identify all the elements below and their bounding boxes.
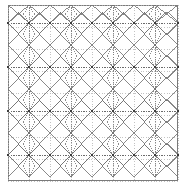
lattice-node (177, 66, 179, 68)
lattice-node (91, 110, 93, 112)
lattice-node (154, 154, 156, 156)
lattice-figure (0, 0, 186, 187)
lattice-node (112, 22, 114, 24)
lattice-node (28, 154, 30, 156)
lattice-node (133, 110, 135, 112)
lattice-node (70, 66, 72, 68)
lattice-node (154, 110, 156, 112)
lattice-node (91, 22, 93, 24)
lattice-node (177, 154, 179, 156)
lattice-node (70, 154, 72, 156)
lattice-node (112, 154, 114, 156)
lattice-node (28, 22, 30, 24)
lattice-node (28, 66, 30, 68)
lattice-node (112, 110, 114, 112)
lattice-canvas (0, 0, 186, 187)
lattice-node (49, 22, 51, 24)
lattice-node (177, 22, 179, 24)
lattice-node (7, 22, 9, 24)
lattice-node (91, 66, 93, 68)
lattice-node (7, 110, 9, 112)
lattice-node (154, 66, 156, 68)
lattice-node (49, 110, 51, 112)
lattice-node (154, 22, 156, 24)
lattice-node (177, 110, 179, 112)
lattice-node (70, 110, 72, 112)
lattice-node (7, 154, 9, 156)
lattice-node (28, 110, 30, 112)
lattice-node (49, 154, 51, 156)
lattice-node (112, 66, 114, 68)
lattice-node (7, 66, 9, 68)
lattice-node (133, 66, 135, 68)
lattice-node (133, 154, 135, 156)
lattice-node (70, 22, 72, 24)
lattice-node (91, 154, 93, 156)
lattice-node (133, 22, 135, 24)
lattice-node (49, 66, 51, 68)
